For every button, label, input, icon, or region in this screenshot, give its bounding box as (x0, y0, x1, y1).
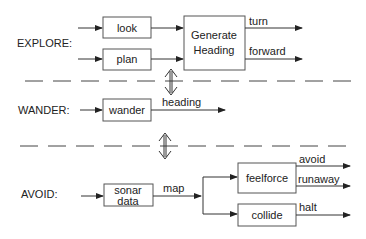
turn-label: turn (249, 15, 268, 27)
feelforce-label: feelforce (246, 172, 288, 184)
heading-output-label: heading (162, 96, 201, 108)
look-label: look (117, 22, 138, 34)
explore-label: EXPLORE: (17, 37, 72, 49)
architecture-diagram: EXPLORE: look plan Generate Heading turn… (0, 0, 366, 239)
generate-heading-box (184, 16, 245, 70)
generate-label: Generate (191, 29, 237, 41)
double-arrow-icon (165, 69, 177, 95)
runaway-label: runaway (298, 173, 340, 185)
map-label: map (163, 182, 184, 194)
heading-label: Heading (194, 44, 235, 56)
forward-label: forward (249, 45, 286, 57)
halt-label: halt (299, 201, 317, 213)
avoid-layer-label: AVOID: (21, 188, 57, 200)
data-label: data (117, 195, 139, 207)
plan-label: plan (117, 53, 138, 65)
diagram-svg: EXPLORE: look plan Generate Heading turn… (0, 0, 366, 239)
collide-label: collide (251, 209, 282, 221)
wander-layer-label: WANDER: (18, 104, 70, 116)
wander-label: wander (108, 104, 145, 116)
avoid-output-label: avoid (299, 153, 325, 165)
